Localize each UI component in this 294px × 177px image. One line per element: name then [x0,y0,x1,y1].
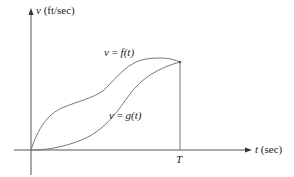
x-axis-unit: (sec) [261,143,282,155]
x-axis-arrow-icon [245,148,252,153]
velocity-diagram [0,0,294,177]
intersection-point [179,61,181,63]
y-axis-label: v (ft/sec) [36,4,75,16]
f-eq: = [109,46,121,58]
g-eq: = [114,109,126,121]
curve-g [31,62,180,150]
y-axis-arrow-icon [29,8,34,15]
g-arg: (t) [131,109,141,121]
curve-f [31,58,180,150]
f-arg: (t) [124,46,134,58]
x-axis-label: t (sec) [255,143,282,155]
t-mark-label: T [176,153,182,165]
g-curve-label: v = g(t) [109,109,142,121]
y-axis-var: v [36,4,41,16]
f-curve-label: v = f(t) [104,46,134,58]
y-axis-unit: (ft/sec) [44,4,75,16]
x-axis-var: t [255,143,258,155]
